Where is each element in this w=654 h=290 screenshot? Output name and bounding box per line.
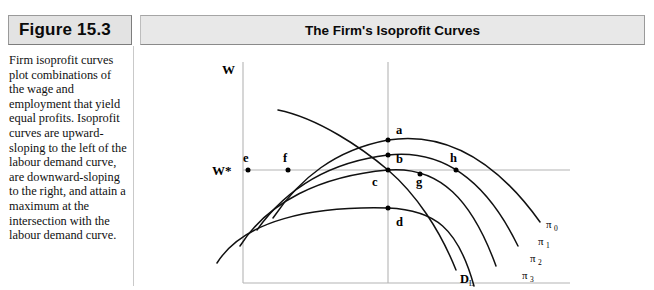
curve-label-pi0-base: π [546, 218, 552, 230]
point-label-c: c [372, 175, 378, 189]
figure-number-label: Figure 15.3 [9, 20, 111, 40]
data-point-e [246, 168, 251, 173]
data-point-b [386, 153, 391, 158]
point-label-f: f [283, 151, 288, 165]
curve-label-pi3: π 3 [522, 269, 534, 284]
figure-title-box: The Firm's Isoprofit Curves [140, 15, 645, 45]
curve-label-dl-sub: L [469, 279, 474, 288]
page-title: The Firm's Isoprofit Curves [305, 23, 480, 38]
curve-label-pi1-base: π [538, 235, 544, 247]
labour-demand-curve [278, 110, 456, 270]
y-axis-label: W [222, 62, 235, 77]
curve-label-dl-base: D [460, 272, 469, 286]
figure-number-box: Figure 15.3 [8, 15, 132, 45]
point-label-e: e [243, 151, 249, 165]
data-point-a [386, 138, 391, 143]
curve-label-pi0: π 0 [546, 218, 558, 233]
curve-label-pi2-sub: 2 [538, 258, 542, 267]
curve-label-pi2: π 2 [530, 252, 542, 267]
curve-label-pi1: π 1 [538, 235, 550, 250]
isoprofit-chart-svg: a b c d e f g h W W* π 0 π 1 π 2 [140, 50, 650, 288]
curve-label-dl: D L [460, 272, 474, 288]
curve-label-pi0-sub: 0 [554, 224, 558, 233]
point-label-a: a [396, 123, 403, 137]
data-point-h [454, 168, 459, 173]
chart-plot-area: a b c d e f g h W W* π 0 π 1 π 2 [140, 50, 650, 288]
wage-star-label: W* [212, 163, 232, 178]
data-point-d [386, 206, 391, 211]
curve-label-pi2-base: π [530, 252, 536, 264]
point-label-h: h [450, 151, 457, 165]
isoprofit-curve-pi2 [240, 170, 496, 266]
figure-caption: Firm isoprofit curves plot combinations … [9, 53, 127, 243]
point-label-d: d [396, 215, 403, 229]
figure-root: Figure 15.3 The Firm's Isoprofit Curves … [0, 0, 654, 290]
curve-label-pi1-sub: 1 [546, 241, 550, 250]
caption-divider [133, 46, 134, 286]
data-point-f [286, 168, 291, 173]
curve-label-pi3-sub: 3 [530, 275, 534, 284]
point-label-g: g [416, 175, 423, 189]
curve-label-pi3-base: π [522, 269, 528, 281]
data-point-c [386, 168, 391, 173]
point-label-b: b [396, 152, 403, 166]
isoprofit-curve-pi3 [217, 208, 474, 286]
